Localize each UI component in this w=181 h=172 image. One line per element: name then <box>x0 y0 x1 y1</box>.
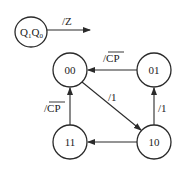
edge-10-to-01: /1 <box>154 88 167 125</box>
svg-text:10: 10 <box>149 136 161 148</box>
legend: Q1Q0 /Z <box>15 15 90 47</box>
legend-output-label: /Z <box>62 15 72 27</box>
state-node-01: 01 <box>137 53 171 87</box>
edge-00-to-10: /1 <box>82 82 141 130</box>
svg-text:01: 01 <box>149 64 160 76</box>
svg-text:11: 11 <box>65 136 76 148</box>
edge-label-00-10: /1 <box>108 91 117 103</box>
edge-01-to-00: /CP <box>88 52 137 70</box>
state-node-11: 11 <box>53 125 87 159</box>
state-node-10: 10 <box>137 125 171 159</box>
state-diagram: Q1Q0 /Z /CP /1 /1 /CP 00 01 10 11 <box>0 0 181 172</box>
edge-label-11-00: /CP <box>44 102 61 114</box>
state-node-00: 00 <box>53 53 87 87</box>
edge-label-01-00: /CP <box>103 52 120 64</box>
edge-label-10-01: /1 <box>158 102 167 114</box>
edge-11-to-00: /CP <box>44 88 70 125</box>
svg-text:00: 00 <box>65 64 77 76</box>
